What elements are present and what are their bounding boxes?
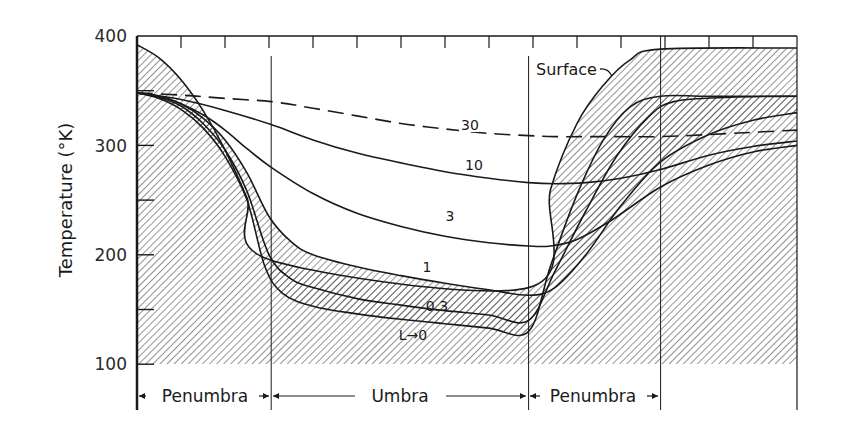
y-axis-title: Temperature (°K) [55, 123, 76, 279]
region-annotations: Penumbra Umbra Penumbra [139, 386, 658, 406]
curve-label-1: 1 [423, 259, 432, 275]
ytick-label-200: 200 [95, 245, 127, 265]
curve-label-0-3: 0.3 [426, 298, 448, 314]
ytick-label-100: 100 [95, 354, 127, 374]
curve-label-l0: L→0 [399, 327, 427, 343]
region-label-umbra: Umbra [371, 386, 428, 406]
curve-label-10: 10 [465, 157, 483, 173]
ytick-label-300: 300 [95, 136, 127, 156]
hatched-regions [137, 45, 797, 364]
surface-leader-line [600, 69, 612, 76]
region-label-right-penumbra: Penumbra [550, 386, 636, 406]
curve-label-3: 3 [446, 208, 455, 224]
curve-label-30: 30 [461, 117, 479, 133]
x-ticks [181, 36, 753, 48]
ytick-label-400: 400 [95, 26, 127, 46]
temperature-chart: 400 300 200 100 Temperature (°K) 30 10 3… [0, 0, 842, 428]
region-label-left-penumbra: Penumbra [162, 386, 248, 406]
curve-label-surface: Surface [536, 60, 597, 79]
